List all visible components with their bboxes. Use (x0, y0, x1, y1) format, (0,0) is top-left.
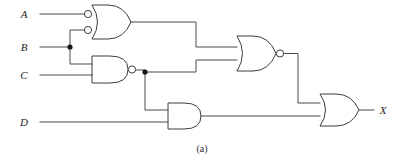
gate-nand (92, 56, 136, 83)
wire-b-to-g1 (70, 30, 84, 47)
junction-dot-b (67, 44, 72, 49)
inversion-bubble-icon-g3-out (276, 50, 283, 57)
logic-circuit-figure: A B C D X (a) (0, 0, 404, 164)
gate-or-output (320, 94, 359, 126)
inversion-bubble-icon-g1-a (84, 10, 91, 17)
gate-g4-body (168, 103, 201, 129)
wire-g3-to-g5 (284, 54, 320, 104)
gate-and (168, 103, 201, 129)
gate-nor (237, 36, 284, 71)
wire-g1-to-g3 (131, 22, 237, 47)
input-label-c: C (20, 69, 28, 81)
wire-g2-to-g4 (145, 72, 168, 110)
gate-or-negated-inputs (84, 5, 131, 39)
input-label-a: A (20, 8, 28, 20)
junction-dot-nand-output (142, 69, 147, 74)
circuit-schematic: A B C D X (a) (0, 0, 404, 164)
wire-b-to-g2 (70, 47, 92, 64)
gate-g2-body (92, 56, 128, 83)
inversion-bubble-icon-g1-b (84, 26, 91, 33)
gate-g5-body (320, 94, 359, 126)
output-label-x: X (379, 104, 388, 116)
wire-g2-to-g3 (145, 60, 237, 72)
input-label-d: D (19, 116, 28, 128)
inversion-bubble-icon-g2-out (128, 66, 135, 73)
gate-g1-body (92, 5, 131, 39)
input-label-b: B (21, 41, 28, 53)
gate-g3-body (237, 36, 276, 71)
figure-caption: (a) (196, 143, 207, 155)
